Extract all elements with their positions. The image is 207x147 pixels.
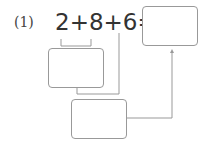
connector-lines <box>0 0 207 147</box>
arrow-up-icon <box>170 49 174 53</box>
